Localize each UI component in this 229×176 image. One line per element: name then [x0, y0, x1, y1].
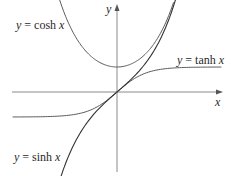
cosh-label: y = cosh x: [15, 18, 65, 32]
y-axis-label: y: [105, 2, 112, 16]
sinh-curve: [56, 0, 176, 176]
sinh-label: y = sinh x: [13, 150, 61, 164]
y-axis: y: [105, 2, 120, 172]
y-axis-arrow-icon: [115, 4, 120, 11]
tanh-label: y = tanh x: [176, 53, 225, 67]
x-axis-arrow-icon: [216, 90, 223, 95]
hyperbolic-functions-graph: x y y = cosh x y = tanh x y = sinh x: [0, 0, 229, 176]
x-axis-label: x: [214, 95, 221, 109]
